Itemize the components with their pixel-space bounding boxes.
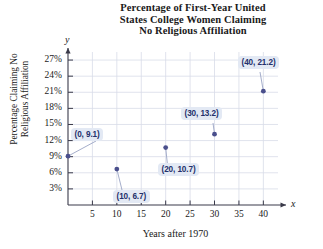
y-axis-tick-label: 21%	[32, 86, 62, 96]
callout-leader-line	[117, 169, 122, 190]
x-axis-arrow-icon	[281, 202, 287, 207]
x-axis-tick-label: 40	[251, 209, 275, 219]
data-point[interactable]	[66, 154, 71, 159]
data-point[interactable]	[261, 89, 266, 94]
chart-figure: Percentage of First-Year United States C…	[0, 0, 323, 249]
y-axis-tick-label: 24%	[32, 70, 62, 80]
y-axis-variable-letter: y	[65, 34, 69, 45]
data-point-callout: (30, 13.2)	[181, 107, 222, 120]
y-axis-tick-label: 9%	[32, 151, 62, 161]
y-axis-tick-label: 15%	[32, 118, 62, 128]
x-axis-tick-label: 35	[227, 209, 251, 219]
data-point-callout: (20, 10.7)	[158, 163, 199, 176]
y-axis-arrow-icon	[65, 48, 70, 54]
callout-leader-line	[68, 141, 96, 156]
data-point[interactable]	[114, 167, 119, 172]
data-point[interactable]	[212, 132, 217, 137]
x-axis-tick-label: 25	[178, 209, 202, 219]
x-axis-tick-label: 20	[154, 209, 178, 219]
y-axis-tick-label: 6%	[32, 167, 62, 177]
x-axis-tick-label: 10	[105, 209, 129, 219]
x-axis-tick-label: 30	[203, 209, 227, 219]
data-point-callout: (40, 21.2)	[238, 56, 279, 69]
y-axis-tick-label: 3%	[32, 183, 62, 193]
x-axis-variable-letter: x	[291, 198, 295, 209]
data-point-callout: (0, 9.1)	[71, 128, 103, 141]
x-axis-tick-label: 15	[129, 209, 153, 219]
data-point-callout: (10, 6.7)	[113, 190, 150, 203]
y-axis-tick-label: 18%	[32, 102, 62, 112]
data-point[interactable]	[163, 145, 168, 150]
y-axis-tick-label: 27%	[32, 54, 62, 64]
y-axis-tick-label: 12%	[32, 135, 62, 145]
x-axis-tick-label: 5	[80, 209, 104, 219]
callout-leader-line	[260, 72, 263, 91]
